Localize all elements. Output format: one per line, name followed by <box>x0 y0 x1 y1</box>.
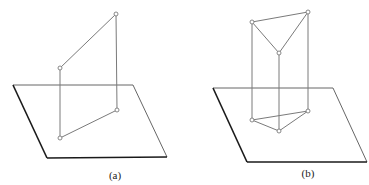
plane-b <box>213 88 367 162</box>
edge <box>252 111 308 120</box>
plane-b-right-edge <box>333 88 367 162</box>
edge <box>116 14 117 110</box>
edge <box>60 14 116 68</box>
vertex <box>58 66 62 70</box>
vertex <box>277 129 281 133</box>
shape-b-edges <box>252 12 308 131</box>
edge <box>252 120 279 131</box>
plane-a-right-edge <box>133 85 167 157</box>
vertex <box>250 118 254 122</box>
shape-a-edges <box>60 14 117 138</box>
plane-a-left-edge <box>13 85 47 158</box>
shape-a-vertices <box>58 12 119 140</box>
vertex <box>306 10 310 14</box>
edge <box>252 12 308 22</box>
figure-b: (b) <box>213 10 367 180</box>
caption-a: (a) <box>109 169 122 182</box>
plane-a <box>13 85 167 158</box>
caption-b: (b) <box>302 167 315 180</box>
edge <box>252 22 279 53</box>
edge <box>279 12 308 53</box>
vertex <box>250 20 254 24</box>
plane-b-left-edge <box>213 88 247 162</box>
vertex <box>114 12 118 16</box>
vertex <box>115 108 119 112</box>
figure-a: (a) <box>13 12 167 182</box>
edge <box>279 111 308 131</box>
vertex <box>306 109 310 113</box>
edge <box>60 110 117 138</box>
diagram-canvas: (a) (b) <box>0 0 369 185</box>
vertex <box>58 136 62 140</box>
shape-b-vertices <box>250 10 310 133</box>
plane-a-bottom-edge <box>47 157 167 158</box>
vertex <box>277 51 281 55</box>
